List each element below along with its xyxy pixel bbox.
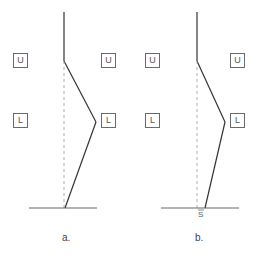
box-lower-right-a: L bbox=[101, 113, 116, 128]
box-lower-left-b: L bbox=[145, 113, 160, 128]
panel-b-lines bbox=[161, 12, 239, 210]
box-lower-right-b: L bbox=[230, 113, 245, 128]
offset-label: S bbox=[198, 210, 203, 219]
caption-b: b. bbox=[195, 232, 203, 243]
panel-a-lines bbox=[29, 12, 97, 208]
box-lower-left-a: L bbox=[13, 113, 28, 128]
box-upper-left-b: U bbox=[145, 53, 160, 68]
box-upper-right-a: U bbox=[101, 53, 116, 68]
box-upper-left-a: U bbox=[13, 53, 28, 68]
profile-bend-line-b bbox=[197, 61, 225, 122]
diagram-canvas bbox=[0, 0, 257, 258]
box-upper-right-b: U bbox=[230, 53, 245, 68]
profile-bend-line-a bbox=[64, 61, 96, 122]
profile-lower-line-a bbox=[65, 122, 96, 208]
caption-a: a. bbox=[62, 232, 70, 243]
profile-lower-line-b bbox=[205, 122, 225, 208]
